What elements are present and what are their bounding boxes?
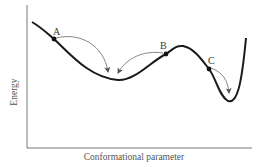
point-a-label: A bbox=[53, 26, 61, 37]
point-b-label: B bbox=[160, 40, 167, 51]
arrow-a-to-minimum bbox=[56, 37, 108, 72]
point-b-marker bbox=[164, 52, 169, 57]
point-c-label: C bbox=[208, 55, 215, 66]
point-c-marker bbox=[207, 67, 212, 72]
y-axis-label: Energy bbox=[9, 78, 19, 106]
arrow-b-to-minimum bbox=[118, 52, 163, 73]
x-axis-label: Conformational parameter bbox=[84, 152, 185, 162]
energy-landscape-diagram: A B C Energy Conformational parameter bbox=[0, 0, 265, 167]
point-a-marker bbox=[52, 37, 57, 42]
